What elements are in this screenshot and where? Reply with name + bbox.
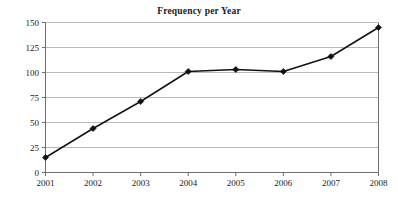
x-tick-label-2003: 2003 [132, 178, 151, 188]
y-tick-label-25: 25 [30, 143, 40, 153]
x-tick-marks-group [46, 173, 379, 177]
y-tick-label-100: 100 [26, 68, 40, 78]
y-tick-label-125: 125 [26, 43, 40, 53]
data-point-2005 [233, 66, 239, 72]
y-tick-label-75: 75 [30, 93, 40, 103]
x-tick-label-2007: 2007 [322, 178, 341, 188]
line-chart-plot: 0255075100125150 20012002200320042005200… [0, 0, 398, 201]
chart-container: Frequency per Year 0255075100125150 2001… [0, 0, 398, 201]
data-point-2006 [280, 68, 286, 74]
x-tick-label-2005: 2005 [227, 178, 246, 188]
x-tick-label-2004: 2004 [179, 178, 198, 188]
y-tick-marks-group [42, 23, 46, 173]
y-tick-label-0: 0 [35, 168, 40, 178]
x-tick-label-2001: 2001 [37, 178, 55, 188]
y-tick-label-150: 150 [26, 18, 40, 28]
x-axis-tick-labels: 20012002200320042005200620072008 [37, 178, 389, 188]
x-tick-label-2006: 2006 [274, 178, 293, 188]
series-polyline [46, 28, 379, 158]
x-tick-label-2002: 2002 [84, 178, 102, 188]
y-tick-label-50: 50 [30, 118, 40, 128]
series-markers-frequency [42, 24, 381, 160]
y-axis-tick-labels: 0255075100125150 [26, 18, 40, 178]
series-line-frequency [46, 28, 379, 158]
x-tick-label-2008: 2008 [370, 178, 389, 188]
